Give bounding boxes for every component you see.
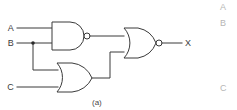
input-label-a: A: [8, 24, 14, 33]
figure-caption: (a): [92, 99, 102, 107]
input-label-b: B: [8, 39, 14, 48]
logic-circuit-figure: A B C X (a) A B C: [0, 0, 237, 110]
gate-nand-bubble-icon: [84, 33, 90, 39]
gate-nor-body: [124, 28, 156, 58]
output-label-x: X: [185, 39, 191, 48]
gate-nor-bubble-icon: [156, 40, 162, 46]
gate-nand-body: [52, 22, 84, 50]
junction-dot-b: [31, 41, 35, 45]
adjacent-figure-label-c: C: [220, 84, 227, 93]
wire-or-out-to-nor: [92, 52, 124, 78]
circuit-schematic: [0, 0, 237, 110]
input-label-c: C: [7, 83, 14, 92]
gate-or-body: [57, 63, 92, 92]
adjacent-figure-label-a: A: [220, 3, 226, 12]
adjacent-figure-label-b: B: [220, 19, 226, 28]
